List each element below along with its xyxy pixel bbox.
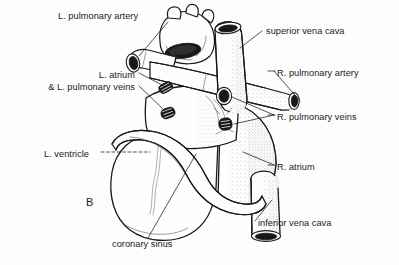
heart-anatomy-drawing (0, 0, 399, 265)
heart-diagram-figure: L. pulmonary artery superior vena cava L… (0, 0, 399, 265)
leader-superior-vena-cava (240, 31, 262, 48)
label-l-pulmonary-veins: & L. pulmonary veins (0, 82, 135, 94)
label-l-pulmonary-artery: L. pulmonary artery (58, 11, 138, 23)
label-inferior-vena-cava: inferior vena cava (258, 218, 331, 230)
label-r-pulmonary-veins: R. pulmonary veins (277, 112, 357, 124)
label-superior-vena-cava: superior vena cava (266, 26, 345, 38)
label-r-pulmonary-artery: R. pulmonary artery (277, 68, 359, 80)
label-r-atrium: R. atrium (277, 162, 315, 174)
label-l-atrium: L. atrium (0, 70, 135, 82)
label-coronary-sinus: coronary sinus (112, 239, 172, 251)
label-l-ventricle: L. ventricle (44, 149, 89, 161)
panel-letter-b: B (86, 196, 93, 208)
